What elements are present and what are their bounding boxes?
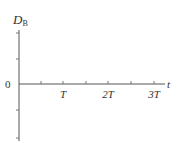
tick-label-2T: 2T [102, 88, 115, 100]
axes-diagram: DB 0 t T 2T 3T [0, 0, 178, 143]
y-axis-label: DB [12, 12, 28, 28]
x-axis-label: t [167, 78, 171, 90]
tick-label-T: T [60, 88, 67, 100]
origin-label: 0 [5, 78, 11, 90]
tick-label-3T: 3T [147, 88, 161, 100]
